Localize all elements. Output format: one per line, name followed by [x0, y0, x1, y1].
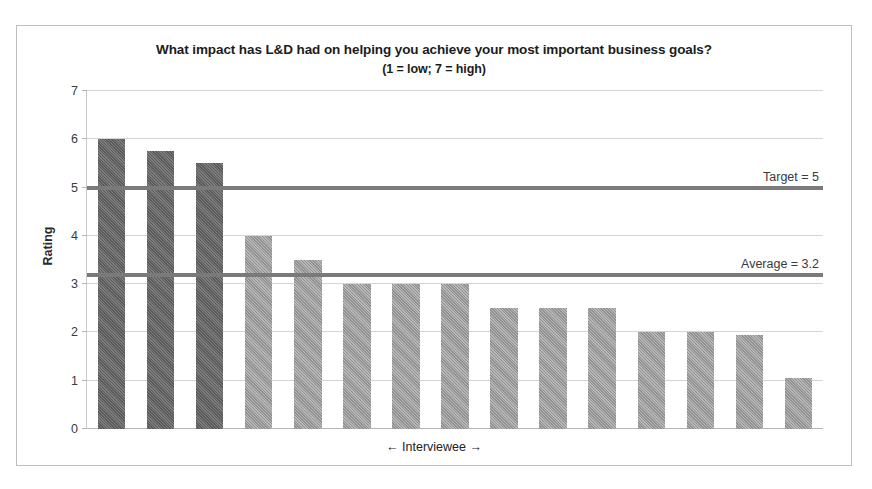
gridline-6 — [87, 138, 823, 139]
bar — [490, 308, 517, 429]
bar — [638, 332, 665, 429]
bar — [588, 308, 615, 429]
y-tick-label-2: 2 — [71, 325, 78, 339]
y-tick-mark-0 — [82, 428, 87, 429]
y-tick-mark-4 — [82, 235, 87, 236]
y-tick-mark-3 — [82, 283, 87, 284]
x-axis-title: ← Interviewee → — [17, 440, 851, 454]
bar — [147, 151, 174, 429]
y-tick-label-5: 5 — [71, 181, 78, 195]
bar — [736, 335, 763, 429]
y-tick-label-4: 4 — [71, 229, 78, 243]
bar — [98, 139, 125, 429]
plot-area: 01234567 Target = 5Average = 3.2 — [87, 91, 823, 429]
y-tick-label-0: 0 — [71, 422, 78, 436]
bar — [785, 378, 812, 429]
y-tick-mark-2 — [82, 331, 87, 332]
bar — [196, 163, 223, 429]
reference-line-label: Target = 5 — [763, 170, 819, 184]
bar — [539, 308, 566, 429]
y-tick-mark-7 — [82, 90, 87, 91]
y-axis-title: Rating — [41, 226, 55, 265]
chart-title-main: What impact has L&D had on helping you a… — [156, 42, 712, 57]
y-axis-line — [86, 91, 87, 429]
bar — [343, 284, 370, 429]
y-tick-mark-6 — [82, 138, 87, 139]
bar — [294, 260, 321, 429]
y-tick-label-1: 1 — [71, 374, 78, 388]
chart-title: What impact has L&D had on helping you a… — [17, 40, 851, 78]
y-tick-label-6: 6 — [71, 132, 78, 146]
chart-frame: What impact has L&D had on helping you a… — [16, 25, 852, 466]
y-tick-mark-1 — [82, 380, 87, 381]
y-tick-label-7: 7 — [71, 84, 78, 98]
y-tick-label-3: 3 — [71, 277, 78, 291]
bar — [245, 236, 272, 429]
bar — [687, 332, 714, 429]
gridline-7 — [87, 90, 823, 91]
bar — [392, 284, 419, 429]
reference-line — [87, 273, 823, 277]
chart-title-subtitle: (1 = low; 7 = high) — [17, 60, 851, 78]
bar — [441, 284, 468, 429]
reference-line — [87, 186, 823, 190]
reference-line-label: Average = 3.2 — [741, 257, 819, 271]
